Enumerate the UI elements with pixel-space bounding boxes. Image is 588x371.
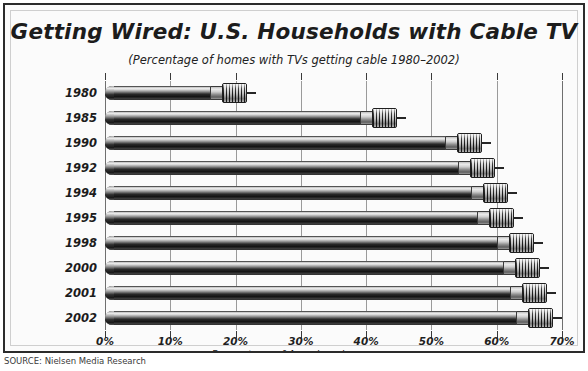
bar-row: 1994 [105, 184, 562, 202]
plug-barrel-icon [489, 208, 514, 228]
plot-area: 1980198519901992199419951998200020012002 [105, 81, 562, 330]
plug-barrel-icon [528, 308, 553, 328]
cable-bar-1990 [105, 136, 447, 150]
plug-barrel-icon [483, 183, 508, 203]
plug-barrel-icon [222, 83, 247, 103]
plug-collar-icon [360, 111, 373, 125]
cable-end-cap-1985 [105, 111, 114, 125]
plug-collar-icon [510, 286, 523, 300]
plug-collar-icon [471, 186, 484, 200]
plug-collar-icon [497, 236, 510, 250]
y-axis-label-1998: 1998 [65, 236, 97, 250]
plug-barrel-icon [457, 133, 482, 153]
x-axis-tick-labels: 0%10%20%30%40%50%60%70% [105, 335, 562, 349]
bar-row: 1985 [105, 109, 562, 127]
x-tick-label-50: 50% [419, 335, 444, 347]
plug-barrel-icon [515, 258, 540, 278]
x-tick-top-0 [105, 73, 106, 80]
bar-row: 1995 [105, 209, 562, 227]
x-tick-label-10: 10% [158, 335, 183, 347]
chart-screenshot: Getting Wired: U.S. Households with Cabl… [0, 0, 588, 371]
y-axis-label-1990: 1990 [65, 136, 97, 150]
cable-end-cap-1995 [105, 211, 114, 225]
plug-pin-icon [513, 217, 523, 219]
bar-row: 2002 [105, 309, 562, 327]
x-tick-label-40: 40% [354, 335, 379, 347]
cable-end-cap-2001 [105, 286, 114, 300]
plug-barrel-icon [372, 108, 397, 128]
plug-barrel-icon [470, 158, 495, 178]
cable-bar-1998 [105, 236, 499, 250]
x-tick-top-70 [562, 73, 563, 80]
bar-row: 1992 [105, 159, 562, 177]
y-axis-label-1980: 1980 [65, 86, 97, 100]
cable-bar-1992 [105, 161, 460, 175]
cable-end-cap-2000 [105, 261, 114, 275]
cable-bar-1995 [105, 211, 479, 225]
plug-barrel-icon [522, 283, 547, 303]
x-tick-label-70: 70% [549, 335, 574, 347]
x-axis-title: Percentage of American homes [5, 348, 583, 353]
cable-bar-2001 [105, 286, 512, 300]
plug-collar-icon [210, 86, 223, 100]
x-tick-top-10 [170, 73, 171, 80]
cable-end-cap-1994 [105, 186, 114, 200]
plug-pin-icon [246, 92, 256, 94]
gridline-70 [562, 81, 563, 330]
plug-pin-icon [507, 192, 517, 194]
plug-pin-icon [539, 267, 549, 269]
bar-row: 1980 [105, 84, 562, 102]
plug-pin-icon [481, 142, 491, 144]
y-axis-label-1992: 1992 [65, 161, 97, 175]
cable-end-cap-1990 [105, 136, 114, 150]
x-tick-label-0: 0% [96, 335, 114, 347]
plug-barrel-icon [509, 233, 534, 253]
cable-end-cap-1980 [105, 86, 114, 100]
x-tick-top-30 [301, 73, 302, 80]
x-tick-top-60 [497, 73, 498, 80]
plug-pin-icon [533, 242, 543, 244]
bar-row: 1998 [105, 234, 562, 252]
source-note: SOURCE: Nielsen Media Research [4, 356, 146, 366]
cable-end-cap-1998 [105, 236, 114, 250]
y-axis-label-1995: 1995 [65, 211, 97, 225]
y-axis-label-1985: 1985 [65, 111, 97, 125]
chart-subtitle: (Percentage of homes with TVs getting ca… [5, 53, 583, 67]
y-axis-label-1994: 1994 [65, 186, 97, 200]
x-tick-label-30: 30% [288, 335, 313, 347]
plug-pin-icon [494, 167, 504, 169]
x-tick-top-20 [236, 73, 237, 80]
cable-bar-2000 [105, 261, 505, 275]
cable-bar-1985 [105, 111, 362, 125]
chart-title: Getting Wired: U.S. Households with Cabl… [5, 19, 583, 44]
cable-bar-1980 [105, 86, 212, 100]
chart-frame: Getting Wired: U.S. Households with Cabl… [3, 3, 585, 353]
cable-end-cap-2002 [105, 311, 114, 325]
cable-end-cap-1992 [105, 161, 114, 175]
bar-row: 2000 [105, 259, 562, 277]
plug-collar-icon [458, 161, 471, 175]
plug-collar-icon [445, 136, 458, 150]
bar-row: 2001 [105, 284, 562, 302]
cable-bar-1994 [105, 186, 473, 200]
plug-pin-icon [396, 117, 406, 119]
y-axis-label-2000: 2000 [65, 261, 97, 275]
cable-bar-2002 [105, 311, 518, 325]
x-tick-top-40 [366, 73, 367, 80]
y-axis-label-2001: 2001 [65, 286, 97, 300]
y-axis-label-2002: 2002 [65, 311, 97, 325]
x-tick-label-60: 60% [484, 335, 509, 347]
plug-pin-icon [552, 317, 562, 319]
bar-row: 1990 [105, 134, 562, 152]
x-tick-top-50 [431, 73, 432, 80]
x-tick-label-20: 20% [223, 335, 248, 347]
plug-pin-icon [546, 292, 556, 294]
